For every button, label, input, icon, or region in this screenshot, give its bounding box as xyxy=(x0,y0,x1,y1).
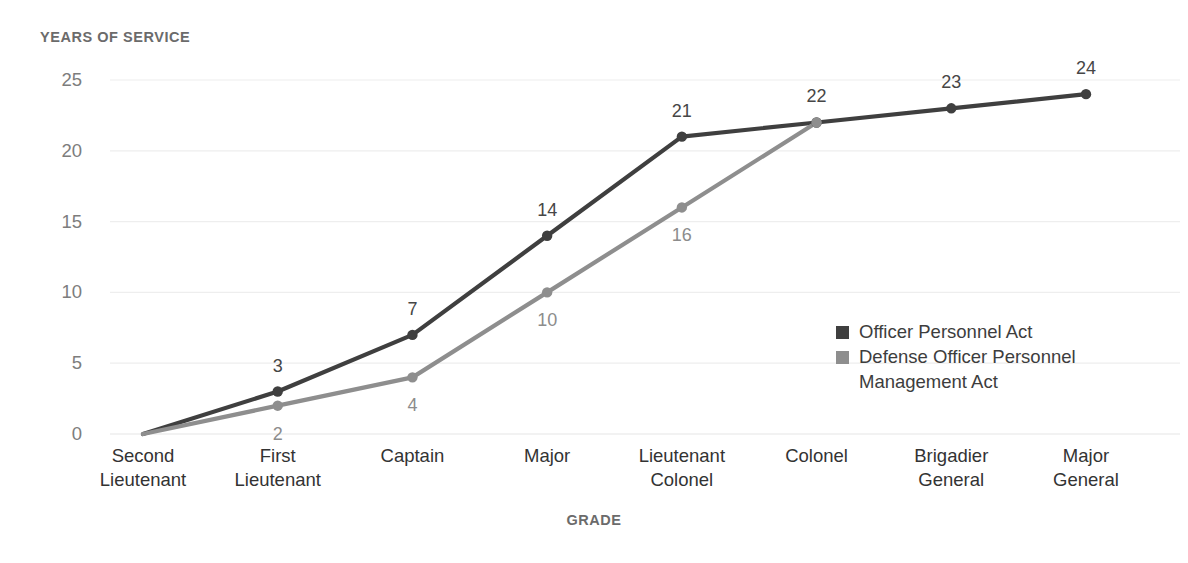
data-point-marker xyxy=(407,330,417,340)
data-point-marker xyxy=(946,103,956,113)
data-point-label: 7 xyxy=(407,298,417,319)
data-point-marker xyxy=(542,287,552,297)
y-axis-tick-label: 15 xyxy=(36,211,82,233)
data-point-label: 2 xyxy=(273,423,283,444)
data-point-marker xyxy=(677,202,687,212)
chart-container: YEARS OF SERVICE 0510152025 Second Lieut… xyxy=(0,0,1188,563)
data-point-label: 14 xyxy=(537,199,557,220)
data-point-label: 16 xyxy=(672,225,692,246)
y-axis-tick-label: 20 xyxy=(36,140,82,162)
y-axis-tick-label: 0 xyxy=(36,423,82,445)
data-point-marker xyxy=(273,400,283,410)
x-axis-category-label: Captain xyxy=(337,444,487,468)
legend-swatch-icon xyxy=(836,326,849,339)
x-axis-category-label: Colonel xyxy=(742,444,892,468)
legend-swatch-icon xyxy=(836,351,849,364)
series-line xyxy=(143,122,817,434)
data-point-label: 3 xyxy=(273,355,283,376)
data-point-marker xyxy=(273,386,283,396)
x-axis-category-label: Brigadier General xyxy=(876,444,1026,491)
x-axis-category-label: First Lieutenant xyxy=(203,444,353,491)
data-point-marker xyxy=(1081,89,1091,99)
x-axis-category-label: Major xyxy=(472,444,622,468)
chart-legend: Officer Personnel ActDefense Officer Per… xyxy=(836,320,1076,395)
data-point-label: 22 xyxy=(807,86,827,107)
y-axis-tick-label: 10 xyxy=(36,281,82,303)
legend-item[interactable]: Defense Officer Personnel Management Act xyxy=(836,345,1076,394)
data-point-marker xyxy=(407,372,417,382)
x-axis-title: GRADE xyxy=(0,512,1188,528)
data-point-label: 23 xyxy=(941,72,961,93)
data-point-marker xyxy=(811,117,821,127)
data-point-label: 4 xyxy=(407,395,417,416)
legend-label: Officer Personnel Act xyxy=(859,320,1032,344)
data-point-label: 21 xyxy=(672,100,692,121)
data-point-marker xyxy=(542,231,552,241)
data-point-label: 10 xyxy=(537,310,557,331)
y-axis-tick-label: 25 xyxy=(36,69,82,91)
x-axis-category-label: Second Lieutenant xyxy=(68,444,218,491)
x-axis-category-label: Lieutenant Colonel xyxy=(607,444,757,491)
data-point-label: 24 xyxy=(1076,58,1096,79)
y-axis-tick-label: 5 xyxy=(36,352,82,374)
legend-label: Defense Officer Personnel Management Act xyxy=(859,345,1076,394)
legend-item[interactable]: Officer Personnel Act xyxy=(836,320,1076,344)
x-axis-category-label: Major General xyxy=(1011,444,1161,491)
data-point-marker xyxy=(677,131,687,141)
